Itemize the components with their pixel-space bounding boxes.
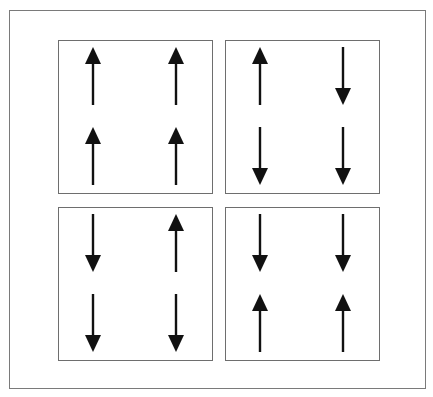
arrow-up-icon [167, 214, 185, 272]
arrow-down-icon [167, 294, 185, 352]
arrow-down-icon [334, 47, 352, 105]
arrow-down-icon [334, 214, 352, 272]
arrow-up-icon [251, 294, 269, 352]
arrow-up-icon [251, 47, 269, 105]
arrow-up-icon [167, 47, 185, 105]
arrow-down-icon [84, 214, 102, 272]
panel-bottom-left [58, 207, 213, 361]
arrow-down-icon [334, 127, 352, 185]
panel-top-left [58, 40, 213, 194]
panel-bottom-right [225, 207, 380, 361]
arrow-up-icon [167, 127, 185, 185]
arrow-up-icon [84, 127, 102, 185]
arrow-down-icon [251, 127, 269, 185]
arrow-down-icon [84, 294, 102, 352]
panel-top-right [225, 40, 380, 194]
arrow-up-icon [84, 47, 102, 105]
arrow-down-icon [251, 214, 269, 272]
arrow-up-icon [334, 294, 352, 352]
